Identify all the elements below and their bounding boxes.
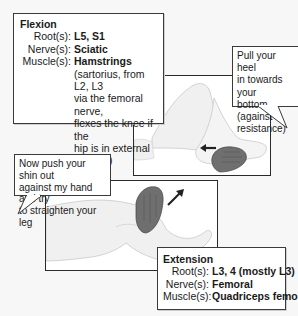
knee-exam-diagram: Flexion Root(s): L5, S1 Nerve(s): Sciati…: [0, 0, 298, 316]
root-label: Root(s):: [20, 30, 71, 42]
extension-instruction-bubble: Now push your shin out against my hand a…: [14, 154, 111, 196]
extension-nerve-row: Nerve(s): Femoral: [163, 278, 280, 290]
root-value: L5, S1: [71, 30, 105, 42]
extension-muscle-row: Muscle(s): Quadriceps femoris: [163, 290, 280, 302]
flexion-title: Flexion: [20, 18, 157, 30]
flexion-info-box: Flexion Root(s): L5, S1 Nerve(s): Sciati…: [13, 13, 164, 124]
muscle-value: Hamstrings: [71, 55, 132, 67]
flexion-root-row: Root(s): L5, S1: [20, 30, 157, 42]
nerve-label: Nerve(s):: [163, 278, 209, 290]
extension-title: Extension: [163, 253, 280, 265]
arrow-up-right-icon: [168, 193, 180, 205]
muscle-label: Muscle(s):: [163, 290, 209, 302]
muscle-label: Muscle(s):: [20, 55, 71, 67]
root-label: Root(s):: [163, 265, 209, 277]
flexion-instruction-bubble: Pull your heel in towards your bottom (a…: [232, 46, 298, 107]
flexion-muscle-row: Muscle(s): Hamstrings: [20, 55, 157, 67]
extension-info-box: Extension Root(s): L3, 4 (mostly L3) Ner…: [157, 247, 286, 310]
nerve-value: Femoral: [209, 278, 253, 290]
flexion-nerve-row: Nerve(s): Sciatic: [20, 43, 157, 55]
nerve-label: Nerve(s):: [20, 43, 71, 55]
nerve-value: Sciatic: [71, 43, 108, 55]
root-value: L3, 4 (mostly L3): [209, 265, 295, 277]
extension-root-row: Root(s): L3, 4 (mostly L3): [163, 265, 280, 277]
flexion-note: (sartorius, from L2, L3 via the femoral …: [20, 68, 157, 167]
muscle-value: Quadriceps femoris: [209, 290, 298, 302]
examiner-hand-icon: [212, 147, 247, 172]
